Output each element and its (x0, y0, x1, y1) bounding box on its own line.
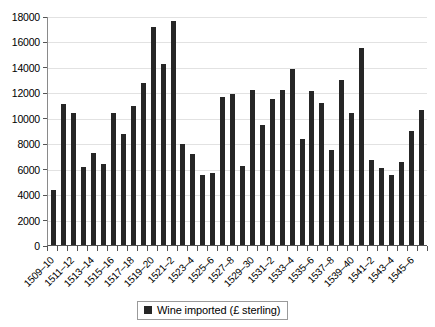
y-axis-tick: 12000 (12, 87, 47, 99)
bar-slot (198, 17, 208, 245)
bar-series (48, 17, 427, 245)
bar (319, 103, 324, 245)
y-axis-tick-label: 16000 (12, 36, 43, 48)
bar-slot (109, 17, 119, 245)
bar-chart: 0200040006000800010000120001400016000180… (0, 0, 435, 327)
bar-slot (367, 17, 377, 245)
bar-slot (168, 17, 178, 245)
bar-slot (158, 17, 168, 245)
y-axis-tick-label: 18000 (12, 11, 43, 23)
bar-slot (89, 17, 99, 245)
bar-slot (148, 17, 158, 245)
y-axis-tick: 18000 (12, 11, 47, 23)
bar-slot (357, 17, 367, 245)
bar (359, 48, 364, 245)
bar (260, 125, 265, 245)
bar (389, 175, 394, 245)
bar (369, 160, 374, 245)
bar (290, 69, 295, 245)
bar (280, 90, 285, 245)
bar (61, 104, 66, 245)
bar (399, 162, 404, 245)
legend-label-wine: Wine imported (£ sterling) (157, 304, 280, 316)
bar-slot (59, 17, 69, 245)
bar (210, 173, 215, 245)
y-axis-tick: 8000 (17, 138, 47, 150)
bar-slot (277, 17, 287, 245)
bar-slot (317, 17, 327, 245)
bar (171, 21, 176, 245)
bar (300, 139, 305, 245)
y-axis-tick-label: 10000 (12, 113, 43, 125)
bar-slot (118, 17, 128, 245)
bar-slot (287, 17, 297, 245)
bar (180, 144, 185, 245)
bar (349, 113, 354, 245)
y-axis-tick-label: 14000 (12, 62, 43, 74)
bar-slot (228, 17, 238, 245)
plot-area (47, 17, 427, 246)
bar (339, 80, 344, 245)
y-axis-tick-label: 8000 (17, 138, 43, 150)
bar (419, 110, 424, 245)
bar-slot (267, 17, 277, 245)
bar-slot (49, 17, 59, 245)
y-axis-tick: 16000 (12, 36, 47, 48)
bar (71, 113, 76, 245)
bar-slot (128, 17, 138, 245)
bar-slot (347, 17, 357, 245)
bar (151, 27, 156, 245)
bar-slot (376, 17, 386, 245)
bar-slot (79, 17, 89, 245)
bar-slot (178, 17, 188, 245)
bar (379, 168, 384, 245)
bar-slot (138, 17, 148, 245)
bar-slot (406, 17, 416, 245)
bar (121, 134, 126, 245)
y-axis-tick-label: 2000 (17, 215, 43, 227)
y-axis-tick: 2000 (17, 215, 47, 227)
bar (51, 190, 56, 245)
legend-swatch-wine (144, 306, 152, 314)
chart-legend: Wine imported (£ sterling) (137, 301, 288, 320)
y-axis-tick-label: 4000 (17, 189, 43, 201)
y-axis-tick-label: 12000 (12, 87, 43, 99)
bar (329, 150, 334, 245)
bar (111, 113, 116, 245)
bar (161, 64, 166, 245)
bar (200, 175, 205, 245)
bar (230, 94, 235, 245)
y-axis-tick-label: 6000 (17, 164, 43, 176)
bar (131, 106, 136, 245)
bar (101, 164, 106, 245)
bar-slot (69, 17, 79, 245)
bar (309, 91, 314, 245)
y-axis-tick: 10000 (12, 113, 47, 125)
bar-slot (396, 17, 406, 245)
bar-slot (386, 17, 396, 245)
bar (270, 99, 275, 245)
bar (409, 131, 414, 245)
bar (81, 167, 86, 245)
bar-slot (218, 17, 228, 245)
bar-slot (208, 17, 218, 245)
bar-slot (416, 17, 426, 245)
bar-slot (99, 17, 109, 245)
bar-slot (297, 17, 307, 245)
bar-slot (337, 17, 347, 245)
y-axis-tick: 6000 (17, 164, 47, 176)
bar (91, 153, 96, 245)
bar (190, 154, 195, 245)
bar (250, 90, 255, 245)
bar (220, 97, 225, 245)
bar-slot (257, 17, 267, 245)
bar-slot (247, 17, 257, 245)
y-axis: 0200040006000800010000120001400016000180… (0, 17, 47, 246)
bar (240, 166, 245, 246)
bar-slot (327, 17, 337, 245)
bar (141, 83, 146, 245)
bar-slot (238, 17, 248, 245)
y-axis-tick: 4000 (17, 189, 47, 201)
bar-slot (307, 17, 317, 245)
bar-slot (188, 17, 198, 245)
